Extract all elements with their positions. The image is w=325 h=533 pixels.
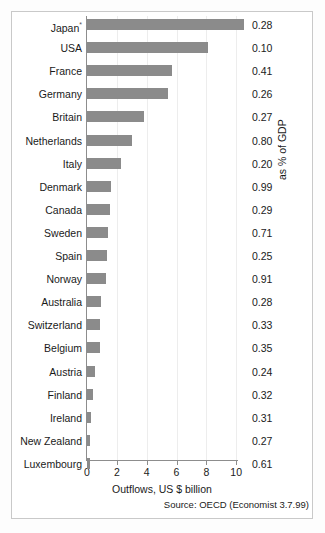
x-axis-title: Outflows, US $ billion [86, 483, 238, 495]
chart-row: Luxembourg0.61 [0, 457, 325, 480]
gdp-percent-value: 0.80 [252, 134, 272, 148]
chart-row: Austria0.24 [0, 365, 325, 388]
plot-area: 0246810 Japan*0.28USA0.10France0.41Germa… [0, 0, 325, 533]
category-label: Austria [0, 365, 82, 379]
gdp-percent-value: 0.61 [252, 457, 272, 471]
category-label: Australia [0, 295, 82, 309]
chart-row: Sweden0.71 [0, 226, 325, 249]
chart-row: France0.41 [0, 64, 325, 87]
chart-row: Canada0.29 [0, 203, 325, 226]
bar [87, 111, 144, 122]
chart-row: USA0.10 [0, 41, 325, 64]
bar [87, 181, 111, 192]
chart-row: New Zealand0.27 [0, 434, 325, 457]
category-label: France [0, 64, 82, 78]
category-label: USA [0, 41, 82, 55]
bar [87, 65, 172, 76]
category-label: Belgium [0, 341, 82, 355]
category-label: New Zealand [0, 434, 82, 448]
bar [87, 204, 110, 215]
bar [87, 435, 90, 446]
gdp-percent-value: 0.28 [252, 295, 272, 309]
gdp-percent-value: 0.20 [252, 157, 272, 171]
gdp-percent-value: 0.10 [252, 41, 272, 55]
category-label: Italy [0, 157, 82, 171]
bar [87, 158, 121, 169]
gdp-percent-value: 0.27 [252, 110, 272, 124]
right-axis-title: as % of GDP [276, 119, 288, 180]
chart-row: Germany0.26 [0, 87, 325, 110]
category-label: Switzerland [0, 318, 82, 332]
category-label: Luxembourg [0, 457, 82, 471]
chart-row: Belgium0.35 [0, 341, 325, 364]
source-note: Source: OECD (Economist 3.7.99) [164, 499, 309, 510]
bar [87, 42, 208, 53]
gdp-percent-value: 0.29 [252, 203, 272, 217]
category-label: Sweden [0, 226, 82, 240]
gdp-percent-value: 0.32 [252, 388, 272, 402]
category-label: Spain [0, 249, 82, 263]
gdp-percent-value: 0.71 [252, 226, 272, 240]
chart-row: Japan*0.28 [0, 18, 325, 41]
gdp-percent-value: 0.91 [252, 272, 272, 286]
gdp-percent-value: 0.26 [252, 87, 272, 101]
footnote-marker: * [79, 21, 82, 28]
gdp-percent-value: 0.33 [252, 318, 272, 332]
category-label: Norway [0, 272, 82, 286]
bar [87, 319, 100, 330]
bar [87, 19, 244, 30]
category-label: Finland [0, 388, 82, 402]
bar [87, 458, 90, 469]
gdp-percent-value: 0.99 [252, 180, 272, 194]
chart-row: Norway0.91 [0, 272, 325, 295]
bar [87, 342, 100, 353]
category-label: Netherlands [0, 134, 82, 148]
bar [87, 412, 91, 423]
category-label: Japan* [0, 18, 82, 35]
bar [87, 389, 93, 400]
gdp-percent-value: 0.27 [252, 434, 272, 448]
bar [87, 88, 168, 99]
chart-row: Spain0.25 [0, 249, 325, 272]
gdp-percent-value: 0.25 [252, 249, 272, 263]
gdp-percent-value: 0.24 [252, 365, 272, 379]
chart-row: Switzerland0.33 [0, 318, 325, 341]
bar [87, 296, 101, 307]
bar [87, 135, 132, 146]
category-label: Britain [0, 110, 82, 124]
gdp-percent-value: 0.31 [252, 411, 272, 425]
chart-figure: 0246810 Japan*0.28USA0.10France0.41Germa… [0, 0, 325, 533]
category-label: Ireland [0, 411, 82, 425]
category-label: Denmark [0, 180, 82, 194]
bar [87, 227, 108, 238]
bar [87, 273, 106, 284]
chart-row: Finland0.32 [0, 388, 325, 411]
bar [87, 366, 95, 377]
gdp-percent-value: 0.35 [252, 341, 272, 355]
bar [87, 250, 107, 261]
gdp-percent-value: 0.41 [252, 64, 272, 78]
category-label: Canada [0, 203, 82, 217]
category-label: Germany [0, 87, 82, 101]
gdp-percent-value: 0.28 [252, 18, 272, 32]
chart-row: Denmark0.99 [0, 180, 325, 203]
chart-row: Australia0.28 [0, 295, 325, 318]
chart-row: Ireland0.31 [0, 411, 325, 434]
